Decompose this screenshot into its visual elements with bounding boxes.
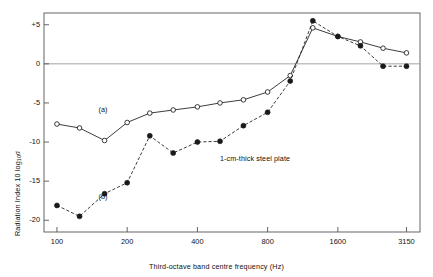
x-axis-label: Third-octave band centre frequency (Hz) bbox=[0, 262, 433, 271]
data-point-open-160hz bbox=[102, 138, 107, 143]
data-series-group bbox=[54, 18, 409, 219]
data-point-open-1250hz bbox=[311, 26, 316, 31]
series-line-1 bbox=[57, 28, 407, 141]
x-tick-label-200: 200 bbox=[107, 237, 147, 246]
data-point-filled-250hz bbox=[147, 133, 152, 138]
data-point-filled-200hz bbox=[125, 180, 130, 185]
data-point-open-125hz bbox=[77, 126, 82, 131]
y-tick-label--5: -5 bbox=[12, 98, 40, 107]
chart-canvas bbox=[0, 0, 433, 277]
x-tick-label-100: 100 bbox=[37, 237, 77, 246]
series-2 bbox=[54, 18, 409, 219]
series-line-2 bbox=[57, 21, 407, 217]
y-tick-label--10: -10 bbox=[12, 137, 40, 146]
series-label-1: (a) bbox=[99, 105, 108, 114]
data-point-open-400hz bbox=[195, 105, 200, 110]
y-axis-label-container: Radiation Index 10 log10σ bbox=[0, 0, 16, 250]
x-tick-label-800: 800 bbox=[248, 237, 288, 246]
y-axis-label-text: Radiation Index 10 log bbox=[13, 161, 22, 236]
data-point-filled-400hz bbox=[195, 140, 200, 145]
x-tick-label-1600: 1600 bbox=[318, 237, 358, 246]
chart-annotation: 1-cm-thick steel plate bbox=[220, 154, 290, 163]
data-point-open-250hz bbox=[147, 111, 152, 116]
y-tick-label--15: -15 bbox=[12, 176, 40, 185]
data-point-open-315hz bbox=[171, 108, 176, 113]
radiation-index-chart: Radiation Index 10 log10σ Third-octave b… bbox=[0, 0, 433, 277]
data-point-filled-800hz bbox=[265, 110, 270, 115]
data-point-filled-1600hz bbox=[335, 34, 340, 39]
data-point-open-100hz bbox=[55, 122, 60, 127]
data-point-filled-500hz bbox=[218, 139, 223, 144]
data-point-filled-100hz bbox=[54, 203, 59, 208]
data-point-filled-2000hz bbox=[358, 43, 363, 48]
axis-ticks bbox=[44, 25, 406, 232]
data-point-open-800hz bbox=[265, 90, 270, 95]
y-tick-label-0: 0 bbox=[12, 59, 40, 68]
data-point-filled-1000hz bbox=[288, 79, 293, 84]
x-tick-label-3150: 3150 bbox=[386, 237, 426, 246]
y-axis-label-symbol: σ bbox=[13, 151, 22, 155]
data-point-filled-1250hz bbox=[310, 18, 315, 23]
data-point-open-2500hz bbox=[381, 46, 386, 51]
x-tick-label-400: 400 bbox=[177, 237, 217, 246]
y-tick-label-+5: +5 bbox=[12, 20, 40, 29]
data-point-open-630hz bbox=[241, 98, 246, 103]
data-point-filled-2500hz bbox=[381, 64, 386, 69]
data-point-filled-3150hz bbox=[404, 64, 409, 69]
data-point-open-3150hz bbox=[404, 51, 409, 56]
y-axis-label-subscript: 10 bbox=[16, 155, 22, 161]
data-point-filled-315hz bbox=[171, 151, 176, 156]
data-point-filled-125hz bbox=[77, 214, 82, 219]
series-label-2: (b) bbox=[99, 192, 108, 201]
data-point-open-500hz bbox=[218, 101, 223, 106]
y-tick-label--20: -20 bbox=[12, 215, 40, 224]
data-point-open-200hz bbox=[125, 120, 130, 125]
data-point-filled-630hz bbox=[241, 123, 246, 128]
series-1 bbox=[55, 26, 409, 143]
